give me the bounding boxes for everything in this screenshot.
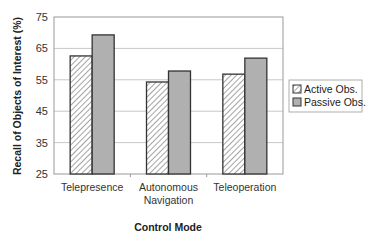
- y-axis-ticks: 253545556575: [36, 11, 48, 180]
- y-axis-title: Recall of Objects of Interest (%): [11, 17, 23, 175]
- x-category-label: Navigation: [144, 194, 194, 206]
- bar-passive: [245, 58, 267, 174]
- legend-label: Active Obs.: [304, 83, 358, 95]
- x-category-label: Telepresence: [61, 181, 124, 193]
- y-tick-label: 55: [36, 74, 48, 86]
- legend-swatch: [293, 98, 301, 106]
- x-axis-categories: TelepresenceAutonomousNavigationTeleoper…: [61, 181, 277, 206]
- bar-passive: [92, 35, 114, 174]
- x-category-label: Teleoperation: [213, 181, 276, 193]
- y-tick-label: 65: [36, 42, 48, 54]
- bar-active: [70, 56, 92, 174]
- x-axis-title: Control Mode: [134, 221, 202, 233]
- y-tick-label: 25: [36, 168, 48, 180]
- legend-swatch: [293, 85, 301, 93]
- y-tick-label: 35: [36, 137, 48, 149]
- x-category-label: Autonomous: [139, 181, 198, 193]
- y-tick-label: 45: [36, 105, 48, 117]
- bars: [70, 35, 267, 174]
- legend-label: Passive Obs.: [304, 96, 366, 108]
- legend: Active Obs.Passive Obs.: [289, 80, 366, 112]
- bar-active: [147, 82, 169, 174]
- bar-passive: [169, 71, 191, 174]
- bar-active: [223, 74, 245, 174]
- y-tick-label: 75: [36, 11, 48, 23]
- bar-chart: 253545556575 TelepresenceAutonomousNavig…: [0, 0, 378, 242]
